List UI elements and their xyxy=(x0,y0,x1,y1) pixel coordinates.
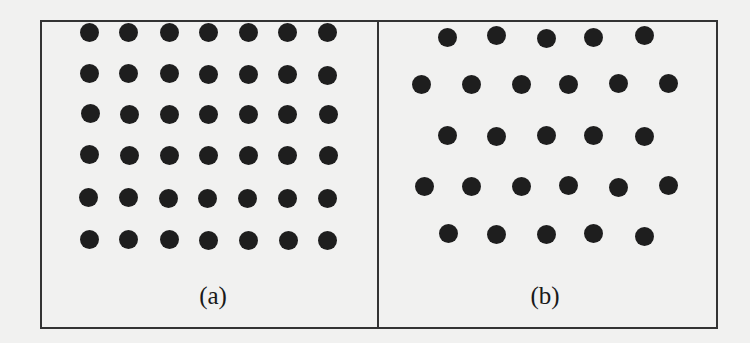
lattice-point-a xyxy=(80,23,99,42)
lattice-point-a xyxy=(79,188,98,207)
panel-b-label: (b) xyxy=(530,282,559,310)
lattice-point-a xyxy=(80,145,99,164)
lattice-point-b xyxy=(412,75,431,94)
lattice-comparison-figure: (a) (b) xyxy=(0,0,750,343)
lattice-point-a xyxy=(160,105,179,124)
lattice-point-a xyxy=(278,146,297,165)
lattice-point-a xyxy=(239,231,258,250)
lattice-point-b xyxy=(487,127,506,146)
lattice-point-a xyxy=(278,105,297,124)
lattice-point-a xyxy=(199,65,218,84)
lattice-point-b xyxy=(584,224,603,243)
lattice-point-b xyxy=(512,75,531,94)
lattice-point-a xyxy=(319,146,338,165)
lattice-point-a xyxy=(278,23,297,42)
lattice-point-a xyxy=(278,65,297,84)
lattice-point-a xyxy=(120,146,139,165)
lattice-point-a xyxy=(238,189,257,208)
panel-a-label: (a) xyxy=(199,282,227,310)
lattice-point-b xyxy=(462,75,481,94)
lattice-point-a xyxy=(279,231,298,250)
lattice-point-a xyxy=(199,231,218,250)
lattice-point-b xyxy=(438,126,457,145)
panel-divider xyxy=(377,20,379,327)
lattice-point-b xyxy=(415,177,434,196)
lattice-point-b xyxy=(609,178,628,197)
lattice-point-a xyxy=(239,105,258,124)
lattice-point-a xyxy=(239,23,258,42)
lattice-point-a xyxy=(239,65,258,84)
lattice-point-a xyxy=(81,104,100,123)
lattice-point-a xyxy=(318,23,337,42)
lattice-point-b xyxy=(659,74,678,93)
figure-frame xyxy=(40,20,718,329)
lattice-point-b xyxy=(487,26,506,45)
lattice-point-a xyxy=(119,23,138,42)
lattice-point-a xyxy=(120,105,139,124)
lattice-point-a xyxy=(318,189,337,208)
lattice-point-b xyxy=(635,26,654,45)
lattice-point-a xyxy=(319,105,338,124)
lattice-point-a xyxy=(159,189,178,208)
lattice-point-a xyxy=(198,189,217,208)
lattice-point-a xyxy=(199,23,218,42)
lattice-point-a xyxy=(119,230,138,249)
lattice-point-a xyxy=(119,64,138,83)
lattice-point-a xyxy=(278,189,297,208)
lattice-point-a xyxy=(160,23,179,42)
lattice-point-b xyxy=(537,225,556,244)
lattice-point-b xyxy=(659,176,678,195)
lattice-point-b xyxy=(537,126,556,145)
lattice-point-a xyxy=(80,64,99,83)
lattice-point-b xyxy=(559,75,578,94)
lattice-point-a xyxy=(160,146,179,165)
lattice-point-a xyxy=(119,188,138,207)
lattice-point-b xyxy=(537,29,556,48)
lattice-point-b xyxy=(609,74,628,93)
lattice-point-b xyxy=(487,225,506,244)
lattice-point-b xyxy=(635,127,654,146)
lattice-point-b xyxy=(635,227,654,246)
lattice-point-a xyxy=(199,146,218,165)
lattice-point-a xyxy=(160,64,179,83)
lattice-point-a xyxy=(318,66,337,85)
lattice-point-b xyxy=(438,28,457,47)
lattice-point-a xyxy=(199,105,218,124)
lattice-point-a xyxy=(318,231,337,250)
lattice-point-b xyxy=(462,177,481,196)
lattice-point-a xyxy=(160,230,179,249)
lattice-point-b xyxy=(559,176,578,195)
lattice-point-b xyxy=(584,126,603,145)
lattice-point-a xyxy=(239,146,258,165)
lattice-point-a xyxy=(80,230,99,249)
lattice-point-b xyxy=(512,177,531,196)
lattice-point-b xyxy=(584,28,603,47)
lattice-point-b xyxy=(439,224,458,243)
